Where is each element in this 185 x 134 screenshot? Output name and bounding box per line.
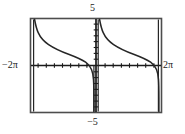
x-min-label: −2π: [2, 60, 18, 70]
x-max-label: 2π: [163, 60, 173, 70]
graph-figure: 5 −5 −2π 2π: [0, 0, 185, 134]
y-max-label: 5: [0, 3, 185, 13]
plot-canvas: [0, 0, 185, 134]
y-min-label: −5: [0, 117, 185, 127]
